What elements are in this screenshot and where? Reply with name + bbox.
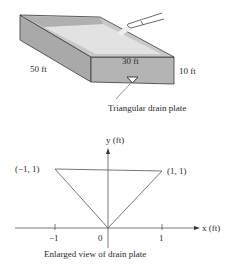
height-label: 10 ft xyxy=(179,66,196,76)
y-axis-label: y (ft) xyxy=(106,135,124,145)
diagram-canvas: 50 ft 30 ft 10 ft Triangular drain plate… xyxy=(0,0,232,271)
x-tick-label-neg1: −1 xyxy=(49,233,59,243)
x-axis-label: x (ft) xyxy=(202,223,220,233)
figure-caption: Enlarged view of drain plate xyxy=(44,249,146,259)
y-axis-arrow-icon xyxy=(106,148,110,154)
length-label: 50 ft xyxy=(30,64,47,74)
drain-label: Triangular drain plate xyxy=(108,103,186,113)
drain-plate-figure: y (ft) x (ft) (−1, 1) (1, 1) −1 0 1 Enla… xyxy=(15,135,220,259)
vertex-left-label: (−1, 1) xyxy=(15,164,40,174)
x-axis-arrow-icon xyxy=(194,226,200,230)
width-label: 30 ft xyxy=(122,56,139,66)
x-tick-label-0: 0 xyxy=(98,233,103,243)
vertex-right-label: (1, 1) xyxy=(167,166,187,176)
drain-leader-line xyxy=(116,84,130,99)
x-tick-label-1: 1 xyxy=(159,233,164,243)
inlet-pipe-icon xyxy=(127,13,164,28)
drain-triangle xyxy=(55,169,162,228)
tank-figure: 50 ft 30 ft 10 ft Triangular drain plate xyxy=(20,13,196,113)
